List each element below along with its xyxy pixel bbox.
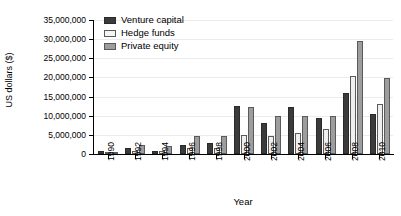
y-tick-label: 25,000,000 bbox=[24, 54, 86, 63]
x-tick-label-text: 2004 bbox=[297, 142, 306, 161]
y-tick-label: 10,000,000 bbox=[24, 112, 86, 121]
legend-swatch-icon bbox=[104, 43, 116, 50]
y-tick-label: 35,000,000 bbox=[24, 16, 86, 25]
bar-chart: US dollars ($) 05,000,00010,000,00015,00… bbox=[0, 0, 401, 216]
legend-swatch-icon bbox=[104, 17, 116, 24]
bar-group bbox=[370, 20, 391, 154]
y-axis-title-text: US dollars ($) bbox=[3, 52, 13, 107]
x-tick-label-text: 1994 bbox=[161, 142, 170, 161]
bar-group bbox=[316, 20, 337, 154]
legend-label: Venture capital bbox=[121, 15, 184, 25]
bar bbox=[234, 106, 240, 154]
bar bbox=[207, 143, 213, 154]
legend-item-venture-capital: Venture capital bbox=[104, 14, 184, 26]
x-tick-label-text: 2000 bbox=[243, 142, 252, 161]
bar bbox=[370, 114, 376, 154]
bar-group bbox=[207, 20, 228, 154]
y-tick-label: 0 bbox=[24, 150, 86, 159]
legend-label: Private equity bbox=[121, 41, 179, 51]
bar bbox=[316, 118, 322, 154]
bar bbox=[261, 123, 267, 154]
bar bbox=[125, 148, 131, 154]
x-tick-label-text: 1992 bbox=[134, 142, 143, 161]
x-tick-label-text: 2010 bbox=[378, 142, 387, 161]
y-tick-label: 15,000,000 bbox=[24, 93, 86, 102]
bar bbox=[357, 41, 363, 154]
x-tick-label-text: 2006 bbox=[324, 142, 333, 161]
bar bbox=[288, 107, 294, 154]
bar-group bbox=[343, 20, 364, 154]
x-axis-title: Year bbox=[93, 196, 393, 207]
x-tick-label-text: 1998 bbox=[215, 142, 224, 161]
bar bbox=[152, 151, 158, 154]
legend-item-private-equity: Private equity bbox=[104, 40, 184, 52]
bar bbox=[98, 151, 104, 154]
legend-label: Hedge funds bbox=[121, 28, 175, 38]
bar-group bbox=[288, 20, 309, 154]
bar bbox=[180, 145, 186, 154]
legend-swatch-icon bbox=[104, 30, 116, 37]
y-tick-label: 20,000,000 bbox=[24, 73, 86, 82]
x-tick-label-text: 1990 bbox=[107, 142, 116, 161]
bar-group bbox=[234, 20, 255, 154]
y-tick-label: 30,000,000 bbox=[24, 35, 86, 44]
bar-group bbox=[261, 20, 282, 154]
chart-legend: Venture capital Hedge funds Private equi… bbox=[104, 14, 184, 53]
x-tick-label-text: 1996 bbox=[188, 142, 197, 161]
x-tick-label-text: 2008 bbox=[351, 142, 360, 161]
y-tick-label: 5,000,000 bbox=[24, 131, 86, 140]
bar bbox=[343, 93, 349, 154]
legend-item-hedge-funds: Hedge funds bbox=[104, 27, 184, 39]
y-axis-title: US dollars ($) bbox=[0, 0, 16, 160]
x-tick-label-text: 2002 bbox=[270, 142, 279, 161]
